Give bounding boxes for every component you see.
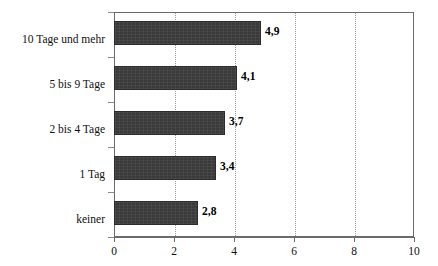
x-axis-label-3: 6: [279, 245, 309, 257]
bar-value-0: 4,9: [265, 25, 279, 37]
category-label-1: 5 bis 9 Tage: [49, 78, 105, 90]
x-axis-label-2: 4: [219, 245, 249, 257]
bar-row: 3,7: [114, 111, 414, 135]
x-axis-tick-5: [414, 237, 415, 242]
category-axis-labels: 10 Tage und mehr 5 bis 9 Tage 2 bis 4 Ta…: [0, 12, 110, 237]
x-axis-tick-0: [114, 237, 115, 242]
bar-value-4: 2,8: [202, 205, 216, 217]
bar-chart: 10 Tage und mehr 5 bis 9 Tage 2 bis 4 Ta…: [0, 0, 438, 266]
x-axis-tick-4: [354, 237, 355, 242]
x-axis-label-0: 0: [99, 245, 129, 257]
x-axis-tick-2: [234, 237, 235, 242]
bar-1[interactable]: [114, 66, 237, 90]
category-label-4: keiner: [76, 213, 105, 225]
bar-2[interactable]: [114, 111, 225, 135]
bar-4[interactable]: [114, 201, 198, 225]
bar-value-1: 4,1: [241, 70, 255, 82]
x-axis-label-1: 2: [159, 245, 189, 257]
category-label-3: 1 Tag: [80, 168, 106, 180]
category-label-2: 2 bis 4 Tage: [49, 123, 105, 135]
bar-value-3: 3,4: [220, 160, 234, 172]
x-axis-tick-3: [294, 237, 295, 242]
bar-row: 2,8: [114, 201, 414, 225]
x-axis-line: [114, 237, 414, 238]
bar-row: 4,9: [114, 21, 414, 45]
bar-row: 3,4: [114, 156, 414, 180]
x-axis-label-4: 8: [339, 245, 369, 257]
bars-layer: 4,9 4,1 3,7 3,4 2,8: [114, 12, 414, 237]
bar-value-2: 3,7: [229, 115, 243, 127]
bar-3[interactable]: [114, 156, 216, 180]
x-axis-tick-1: [174, 237, 175, 242]
bar-0[interactable]: [114, 21, 261, 45]
category-label-0: 10 Tage und mehr: [22, 33, 105, 45]
bar-row: 4,1: [114, 66, 414, 90]
x-axis-label-5: 10: [399, 245, 429, 257]
